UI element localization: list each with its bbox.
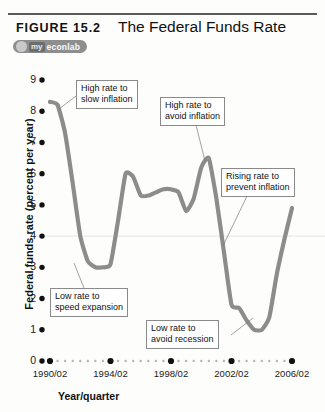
annotation-line-2: avoid recession <box>151 334 214 345</box>
annotation-high-rate-avoid-inflation: High rate to avoid inflation <box>160 97 225 126</box>
x-tick-label-1998-02: 1998/02 <box>139 368 203 379</box>
annotation-line-2: speed expansion <box>55 302 123 313</box>
y-axis-tick-dots <box>39 77 44 363</box>
annotation-line-1: High rate to <box>81 83 133 94</box>
annotation-line-2: slow inflation <box>81 94 133 105</box>
annotation-high-rate-slow-inflation: High rate to slow inflation <box>76 80 138 109</box>
annotation-line-1: Rising rate to <box>226 171 290 182</box>
badge-prefix: my <box>29 42 45 52</box>
chart-plot-area: 0123456789 1990/021994/021998/022002/022… <box>0 58 325 412</box>
y-tick-label-9: 9 <box>22 73 36 85</box>
x-tick-label-1994-02: 1994/02 <box>79 368 143 379</box>
annotation-line-1: High rate to <box>165 100 220 111</box>
annotation-line-1: Low rate to <box>151 323 214 334</box>
badge-name: econlab <box>47 42 81 52</box>
x-axis-tick-dots <box>47 358 295 364</box>
annotation-low-rate-avoid-recession: Low rate to avoid recession <box>146 320 219 349</box>
annotation-line-2: prevent inflation <box>226 182 290 193</box>
figure-container: FIGURE 15.2 The Federal Funds Rate my ec… <box>0 0 325 412</box>
header-divider <box>8 13 317 15</box>
annotation-line-2: avoid inflation <box>165 111 220 122</box>
x-tick-label-2006-02: 2006/02 <box>260 368 324 379</box>
x-tick-label-1990-02: 1990/02 <box>18 368 82 379</box>
myeconlab-badge[interactable]: my econlab <box>13 40 87 53</box>
y-axis-title: Federal funds rate (percent per year) <box>23 99 35 329</box>
x-axis-title: Year/quarter <box>58 390 119 402</box>
y-tick-label-0: 0 <box>22 354 36 366</box>
annotation-low-rate-speed-expansion: Low rate to speed expansion <box>50 288 128 317</box>
x-tick-label-2002-02: 2002/02 <box>200 368 264 379</box>
figure-number: FIGURE 15.2 <box>16 21 101 35</box>
annotation-rising-rate-prevent-inflation: Rising rate to prevent inflation <box>221 168 295 197</box>
figure-title: The Federal Funds Rate <box>118 18 286 36</box>
annotation-line-1: Low rate to <box>55 291 123 302</box>
swoosh-icon <box>16 41 27 52</box>
